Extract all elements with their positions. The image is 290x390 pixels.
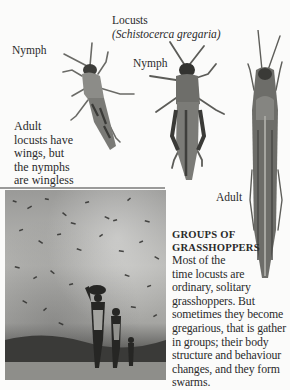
body-line: sometimes they become	[172, 308, 290, 322]
swarm-photo-drawing	[5, 190, 166, 380]
body-line: changes, and they form	[172, 363, 290, 377]
label-nymph-small: Nymph	[12, 44, 47, 57]
wings-caption-line: Adult	[14, 120, 114, 134]
body-line: grasshoppers. But	[172, 295, 290, 309]
nymph-large-illustration	[146, 40, 226, 185]
body-line: ordinary, solitary	[172, 281, 290, 295]
body-line: Most of the	[172, 254, 290, 268]
wings-caption-line: the nymphs	[14, 161, 114, 175]
groups-of-grasshoppers-section: GROUPS OF GRASSHOPPERS Most of the time …	[172, 228, 290, 390]
wings-caption-line: are wingless	[14, 174, 114, 188]
body-line: in groups; their body	[172, 336, 290, 350]
wings-caption-line: wings, but	[14, 147, 114, 161]
section-divider	[0, 187, 165, 189]
page-title: Locusts (Schistocerca gregaria)	[112, 13, 221, 41]
body-line: swarms.	[172, 376, 290, 390]
wings-caption-line: locusts have	[14, 134, 114, 148]
section-heading: GROUPS OF GRASSHOPPERS	[172, 228, 290, 254]
heading-line: GROUPS OF	[172, 228, 290, 241]
locust-swarm-photo	[5, 190, 166, 380]
body-line: structure and behaviour	[172, 349, 290, 363]
label-adult: Adult	[216, 191, 242, 204]
body-line: gregarious, that is gather	[172, 322, 290, 336]
body-line: time locusts are	[172, 268, 290, 282]
wings-caption: Adult locusts have wings, but the nymphs…	[14, 120, 114, 188]
section-body: Most of the time locusts are ordinary, s…	[172, 254, 290, 390]
title-common-name: Locusts	[112, 13, 221, 27]
